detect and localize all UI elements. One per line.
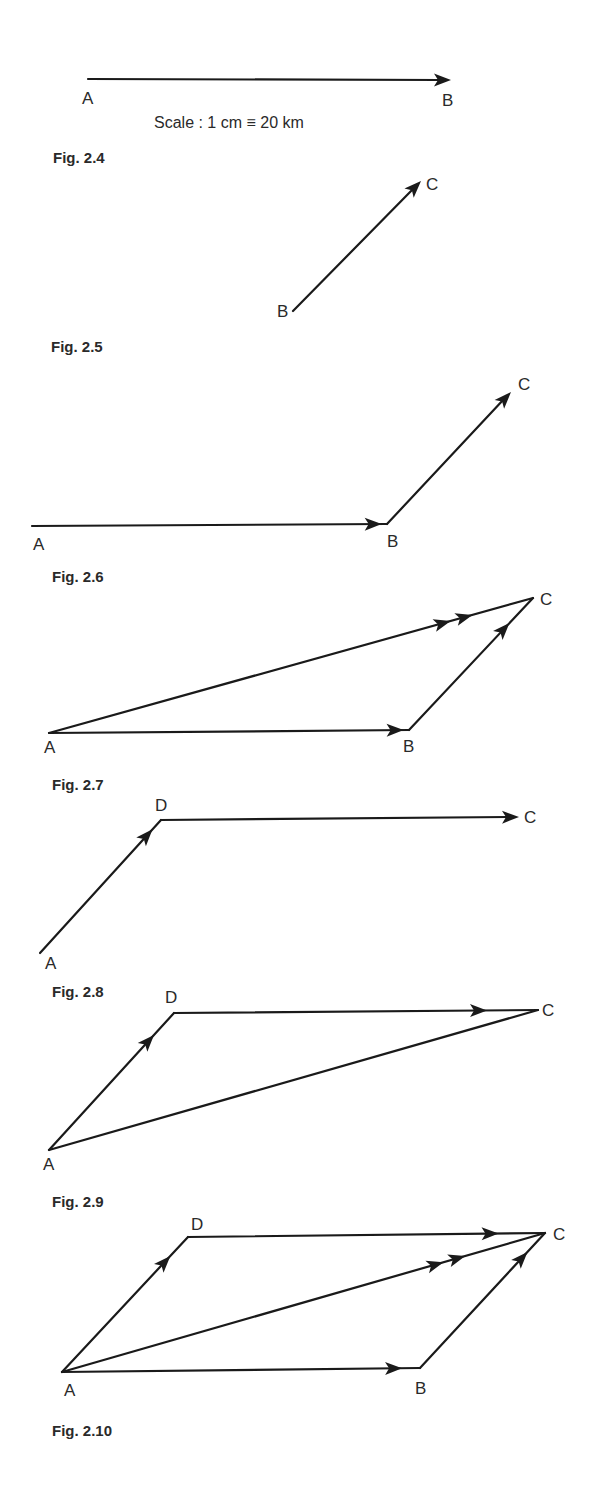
point-label-b: B	[403, 737, 414, 756]
vector-ab	[32, 524, 387, 526]
vector-ab	[62, 1368, 420, 1372]
point-label-d: D	[155, 796, 167, 815]
point-label-b: B	[277, 302, 288, 321]
point-label-a: A	[64, 1381, 76, 1400]
point-label-a: A	[45, 954, 57, 973]
figure-2-4: A B Scale : 1 cm ≡ 20 km Fig. 2.4	[53, 73, 453, 166]
point-label-a: A	[44, 738, 56, 757]
vector-ad	[40, 820, 161, 953]
figure-caption: Fig. 2.5	[51, 338, 103, 355]
vector-ab	[49, 730, 409, 733]
figure-2-9: D C A Fig. 2.9	[43, 988, 554, 1210]
figure-caption: Fig. 2.7	[52, 776, 104, 793]
point-label-a: A	[82, 89, 94, 108]
point-label-d: D	[191, 1215, 203, 1234]
vector-ac	[62, 1233, 545, 1372]
vector-bc	[387, 399, 504, 524]
vector-diagram-page: A B Scale : 1 cm ≡ 20 km Fig. 2.4 B C Fi…	[0, 0, 591, 1501]
figure-caption: Fig. 2.10	[52, 1422, 112, 1439]
figure-caption: Fig. 2.6	[52, 568, 104, 585]
point-label-b: B	[387, 532, 398, 551]
figure-caption: Fig. 2.8	[52, 983, 104, 1000]
vector-ad	[49, 1013, 174, 1150]
point-label-c: C	[524, 808, 536, 827]
point-label-b: B	[415, 1379, 426, 1398]
figure-2-10: D C A B Fig. 2.10	[52, 1215, 565, 1439]
point-label-c: C	[540, 590, 552, 609]
point-label-c: C	[542, 1001, 554, 1020]
vector-bc	[293, 188, 414, 311]
figure-2-7: A B C Fig. 2.7	[44, 590, 552, 793]
figure-2-5: B C Fig. 2.5	[51, 175, 438, 355]
point-label-a: A	[43, 1155, 55, 1174]
vector-bc	[409, 598, 533, 730]
point-label-b: B	[442, 91, 453, 110]
point-label-a: A	[33, 535, 45, 554]
vector-ab	[88, 79, 440, 80]
figure-2-8: D C A Fig. 2.8	[40, 796, 536, 1000]
figure-2-6: A B C Fig. 2.6	[32, 375, 530, 585]
vector-dc	[161, 817, 508, 820]
point-label-c: C	[518, 375, 530, 394]
vector-ac	[49, 1010, 538, 1150]
point-label-c: C	[426, 175, 438, 194]
figure-caption: Fig. 2.4	[53, 149, 105, 166]
point-label-c: C	[553, 1225, 565, 1244]
point-label-d: D	[165, 988, 177, 1007]
figure-caption: Fig. 2.9	[52, 1193, 104, 1210]
scale-note: Scale : 1 cm ≡ 20 km	[154, 114, 304, 131]
